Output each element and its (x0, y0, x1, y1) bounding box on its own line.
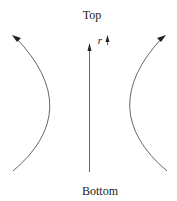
r-label: r (98, 34, 103, 46)
flow-diagram: Top r Bottom (0, 0, 177, 201)
right-arc-arrowhead-icon (157, 35, 166, 42)
top-label: Top (83, 8, 102, 22)
bottom-label: Bottom (82, 184, 119, 198)
center-arrowhead-icon (88, 43, 92, 51)
left-flow-arc (13, 38, 50, 171)
left-arc-arrowhead-icon (12, 35, 21, 42)
r-arrowhead-icon (106, 35, 110, 42)
right-flow-arc (130, 38, 167, 171)
